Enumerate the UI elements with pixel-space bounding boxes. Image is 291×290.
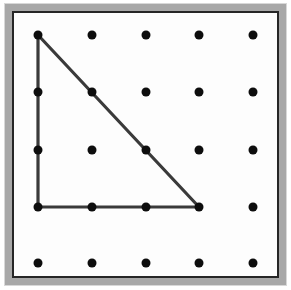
peg-r3-c1[interactable] <box>88 203 97 212</box>
peg-r0-c0[interactable] <box>34 31 43 40</box>
peg-r3-c0[interactable] <box>34 203 43 212</box>
rubber-band-triangle[interactable] <box>38 35 199 207</box>
peg-r0-c4[interactable] <box>249 31 258 40</box>
peg-r1-c4[interactable] <box>249 88 258 97</box>
peg-r1-c2[interactable] <box>142 88 151 97</box>
peg-r4-c1[interactable] <box>88 259 97 268</box>
peg-r2-c1[interactable] <box>88 146 97 155</box>
peg-r1-c1[interactable] <box>88 88 97 97</box>
peg-r1-c3[interactable] <box>195 88 204 97</box>
board-surface[interactable] <box>0 0 291 290</box>
peg-r0-c2[interactable] <box>142 31 151 40</box>
peg-r3-c2[interactable] <box>142 203 151 212</box>
peg-r2-c2[interactable] <box>142 146 151 155</box>
peg-r3-c4[interactable] <box>249 203 258 212</box>
peg-r2-c3[interactable] <box>195 146 204 155</box>
peg-r4-c4[interactable] <box>249 259 258 268</box>
peg-r2-c0[interactable] <box>34 146 43 155</box>
peg-r2-c4[interactable] <box>249 146 258 155</box>
peg-r1-c0[interactable] <box>34 88 43 97</box>
peg-r4-c3[interactable] <box>195 259 204 268</box>
peg-r0-c3[interactable] <box>195 31 204 40</box>
peg-r4-c2[interactable] <box>142 259 151 268</box>
peg-r3-c3[interactable] <box>195 203 204 212</box>
peg-r4-c0[interactable] <box>34 259 43 268</box>
geoboard-figure <box>0 0 291 290</box>
peg-r0-c1[interactable] <box>88 31 97 40</box>
